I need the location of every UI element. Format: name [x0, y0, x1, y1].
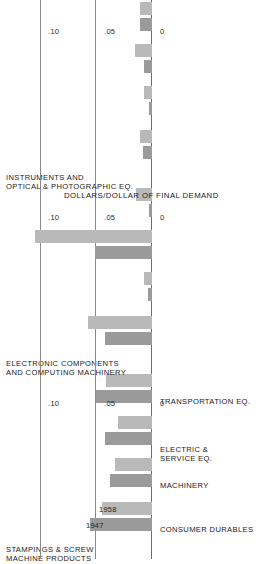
gridline-010	[40, 373, 41, 559]
bar-1947-consumer-durables	[143, 146, 152, 159]
ytick-label-010: .10	[48, 27, 59, 36]
bar-1947-transportation-eq	[140, 18, 152, 31]
bar-1958-electric-service-eq	[118, 416, 153, 429]
ytick-label-005: .05	[104, 399, 115, 408]
bar-1958-consumer-durables	[88, 316, 153, 329]
bar-1947-machinery	[148, 288, 152, 301]
chart-panel-instruments: INSTRUMENTS AND OPTICAL & PHOTOGRAPHIC E…	[0, 0, 256, 187]
bar-1947-transportation-eq	[149, 204, 152, 217]
bar-1958-electric-service-eq	[35, 230, 152, 243]
series-label-1947: 1947	[86, 521, 104, 530]
category-label-machinery: MACHINERY	[160, 481, 209, 490]
bar-1947-electric-service-eq	[95, 246, 152, 259]
ytick-label-0: 0	[160, 213, 164, 222]
bar-1947-machinery	[149, 102, 152, 115]
bar-1947-electric-service-eq	[105, 432, 152, 445]
bar-1958-electric-service-eq	[135, 44, 152, 57]
bar-1958-machinery	[144, 86, 152, 99]
chart-panel-electronic-components: ELECTRONIC COMPONENTS AND COMPUTING MACH…	[0, 187, 256, 373]
bar-1958-transportation-eq	[140, 2, 152, 15]
bar-1947-consumer-durables	[105, 332, 152, 345]
ytick-label-010: .10	[48, 213, 59, 222]
series-label-1958: 1958	[99, 505, 117, 514]
ytick-label-005: .05	[104, 213, 115, 222]
gridline-010	[40, 187, 41, 373]
bar-1958-machinery	[144, 272, 152, 285]
category-label-transportation-eq: TRANSPORTATION EQ.	[160, 397, 250, 406]
category-label-line-2: SERVICE EQ.	[160, 454, 212, 463]
plot-area-stampings: 1947 1958	[24, 373, 152, 559]
ytick-label-005: .05	[104, 27, 115, 36]
category-label-electric-service-eq: ELECTRIC & SERVICE EQ.	[160, 445, 212, 464]
bar-1947-electric-service-eq	[144, 60, 152, 73]
ytick-label-010: .10	[48, 399, 59, 408]
bar-1947-machinery	[110, 474, 152, 487]
ytick-label-0: 0	[160, 27, 164, 36]
plot-area-instruments	[24, 0, 152, 187]
gridline-010	[40, 0, 41, 187]
bar-1958-machinery	[115, 458, 152, 471]
plot-area-electronic-components	[24, 187, 152, 373]
category-label-consumer-durables: CONSUMER DURABLES	[160, 525, 253, 534]
y-axis-title: DOLLARS/DOLLAR OF FINAL DEMAND	[64, 191, 219, 200]
chart-panel-stampings: STAMPINGS & SCREW MACHINE PRODUCTS 1947 …	[0, 373, 256, 559]
gridline-005	[95, 187, 96, 373]
gridline-005	[95, 0, 96, 187]
bar-1958-consumer-durables	[140, 130, 152, 143]
category-label-line-1: ELECTRIC &	[160, 445, 212, 454]
